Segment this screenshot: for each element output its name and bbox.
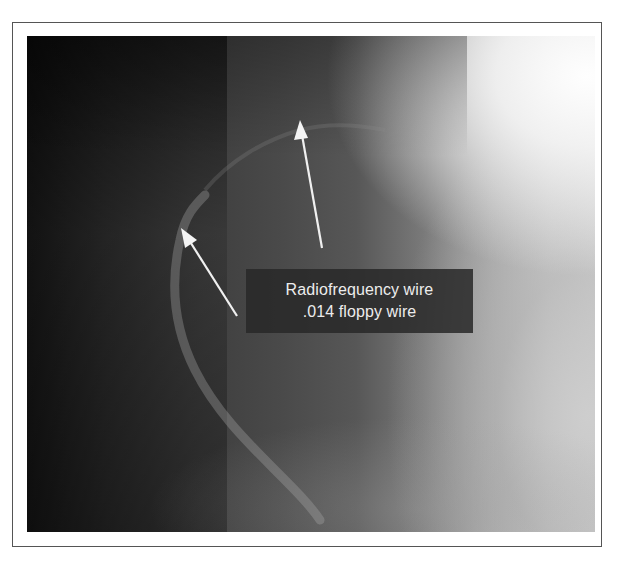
label-floppy-wire: .014 floppy wire [303,301,417,323]
wire-label-box: Radiofrequency wire .014 floppy wire [246,269,473,333]
image-shading-top [27,36,467,156]
image-shading-bottom [147,416,595,532]
label-radiofrequency-wire: Radiofrequency wire [286,279,434,301]
